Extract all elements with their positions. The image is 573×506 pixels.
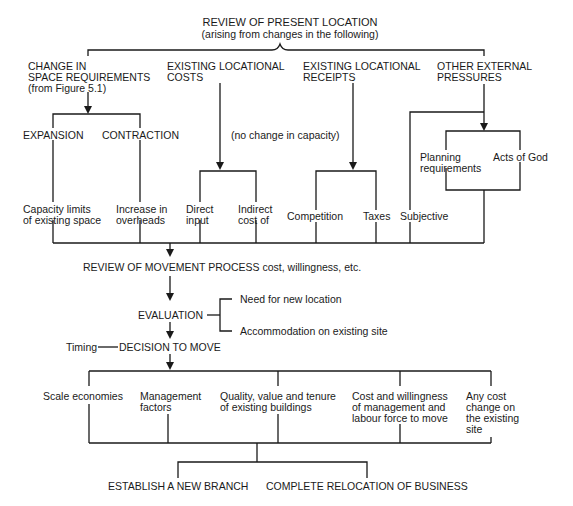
evaluation-node: EVALUATION bbox=[138, 310, 203, 321]
factor-quality-buildings: Quality, value and tenure of existing bu… bbox=[220, 391, 336, 413]
factor-scale-economies: Scale economies bbox=[43, 391, 123, 402]
label-subjective: Subjective bbox=[400, 211, 448, 222]
label-contraction: CONTRACTION bbox=[102, 130, 179, 141]
factor-management: Management factors bbox=[140, 391, 201, 413]
label-increase-overheads: Increase in overheads bbox=[116, 204, 167, 226]
arrow-down-icon bbox=[166, 293, 174, 301]
outcome-complete-relocation: COMPLETE RELOCATION OF BUSINESS bbox=[266, 481, 468, 492]
diagram-title: REVIEW OF PRESENT LOCATION bbox=[202, 17, 377, 28]
diagram-subtitle: (arising from changes in the following) bbox=[202, 29, 379, 40]
evaluation-accommodation: Accommodation on existing site bbox=[240, 326, 388, 337]
timing-label: Timing bbox=[66, 342, 97, 353]
label-indirect-cost: Indirect cost of bbox=[238, 204, 272, 226]
factor-cost-change-site: Any cost change on the existing site bbox=[466, 391, 519, 435]
arrow-down-icon bbox=[166, 331, 174, 339]
label-capacity-limits: Capacity limits of existing space bbox=[23, 204, 101, 226]
category-locational-receipts: EXISTING LOCATIONAL RECEIPTS bbox=[303, 61, 421, 83]
arrow-down-icon bbox=[84, 106, 92, 114]
top-brace bbox=[88, 44, 484, 56]
label-taxes: Taxes bbox=[363, 211, 390, 222]
label-direct-input: Direct input bbox=[186, 204, 213, 226]
arrow-down-icon bbox=[480, 123, 488, 131]
label-competition: Competition bbox=[287, 211, 343, 222]
arrow-down-icon bbox=[166, 249, 174, 257]
arrow-down-icon bbox=[216, 162, 224, 170]
review-movement-process: REVIEW OF MOVEMENT PROCESS cost, willing… bbox=[83, 262, 361, 273]
arrow-down-icon bbox=[166, 362, 174, 370]
outcome-new-branch: ESTABLISH A NEW BRANCH bbox=[108, 481, 248, 492]
factor-cost-willingness: Cost and willingness of management and l… bbox=[352, 391, 448, 424]
category-external-pressures: OTHER EXTERNAL PRESSURES bbox=[437, 61, 532, 83]
location-decision-flowchart: REVIEW OF PRESENT LOCATION (arising from… bbox=[0, 0, 573, 506]
label-expansion: EXPANSION bbox=[23, 130, 84, 141]
label-acts-of-god: Acts of God bbox=[493, 152, 548, 163]
label-planning-requirements: Planning requirements bbox=[420, 152, 481, 174]
label-no-change-capacity: (no change in capacity) bbox=[231, 130, 340, 141]
category-space-requirements: CHANGE IN SPACE REQUIREMENTS (from Figur… bbox=[28, 61, 150, 94]
arrow-down-icon bbox=[349, 162, 357, 170]
evaluation-need-new-location: Need for new location bbox=[240, 294, 342, 305]
category-locational-costs: EXISTING LOCATIONAL COSTS bbox=[167, 61, 285, 83]
decision-to-move-node: DECISION TO MOVE bbox=[119, 342, 221, 353]
